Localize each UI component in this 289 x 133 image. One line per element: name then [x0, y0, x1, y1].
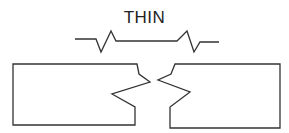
left-fractured-block — [13, 64, 150, 125]
break-line-symbol — [75, 31, 219, 52]
fracture-diagram — [0, 0, 289, 133]
right-fractured-block — [158, 64, 280, 128]
